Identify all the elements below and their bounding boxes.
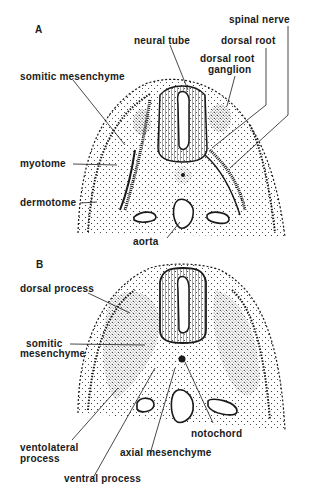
- vessel-right-a: [207, 212, 229, 223]
- dorsal-root-ganglion-right: [209, 104, 231, 132]
- label-dorsal-root-ganglion-line2: ganglion: [208, 64, 251, 75]
- dorsal-root-ganglion-left: [133, 109, 151, 135]
- panel-label-a: A: [35, 24, 42, 35]
- panel-label-b: B: [36, 259, 43, 270]
- panel-a-drawing: [73, 26, 288, 238]
- label-aorta: aorta: [133, 236, 158, 247]
- label-ventolateral-process-line1: ventolateral: [20, 442, 79, 453]
- aorta-b: [171, 390, 193, 422]
- label-ventolateral-process-line2: process: [20, 453, 60, 464]
- notochord-a: [181, 173, 185, 177]
- aorta-a: [174, 199, 194, 228]
- notochord-b: [179, 356, 186, 363]
- label-dermotome: dermotome: [20, 197, 76, 208]
- label-ventral-process: ventral process: [64, 473, 141, 484]
- label-dorsal-root: dorsal root: [221, 35, 275, 46]
- panel-b-drawing: [70, 264, 285, 478]
- label-somitic-mesenchyme-a: somitic mesenchyme: [20, 71, 125, 82]
- label-notochord: notochord: [191, 428, 242, 439]
- label-neural-tube: neural tube: [134, 35, 190, 46]
- label-dorsal-process: dorsal process: [20, 283, 94, 294]
- label-spinal-nerve: spinal nerve: [229, 14, 290, 25]
- label-dorsal-root-ganglion-line1: dorsal root: [200, 53, 254, 64]
- label-somitic-mesenchyme-b-line2: mesenchyme: [20, 348, 85, 359]
- vessel-left-b: [137, 398, 154, 411]
- neural-canal-a: [178, 92, 190, 150]
- neural-canal-b: [178, 277, 189, 333]
- label-axial-mesenchyme: axial mesenchyme: [120, 447, 212, 458]
- label-myotome: myotome: [20, 158, 66, 169]
